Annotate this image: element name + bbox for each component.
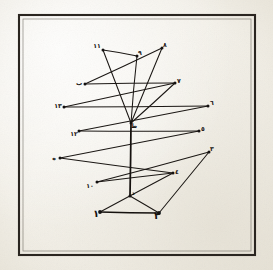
vertex-label-vd: د bbox=[131, 189, 134, 196]
figure-edge bbox=[64, 83, 175, 107]
vertex-label-vt: ط bbox=[131, 122, 138, 129]
figure-vertex bbox=[59, 157, 62, 160]
figure-edge bbox=[131, 48, 162, 123]
figure-edge bbox=[131, 56, 137, 123]
figure-edge bbox=[159, 152, 209, 213]
vertex-label-v8: ٨ bbox=[163, 41, 167, 48]
figure-edge bbox=[103, 50, 131, 123]
figure-vertex bbox=[78, 130, 81, 133]
vertex-label-v6: ٦ bbox=[210, 99, 214, 106]
figure-edge bbox=[100, 212, 159, 213]
vertex-label-v4: ٤ bbox=[175, 168, 179, 175]
frame-border-inner bbox=[23, 19, 251, 251]
vertex-label-v9: ٩ bbox=[138, 49, 142, 56]
figure-vertex bbox=[96, 181, 99, 184]
vertex-label-v10: ١٠ bbox=[86, 182, 94, 189]
vertex-label-v1: ١ bbox=[93, 208, 99, 219]
figure-vertex bbox=[63, 106, 66, 109]
vertex-label-v2: ٢ bbox=[154, 210, 160, 221]
vertex-label-v12: ١٢ bbox=[70, 130, 78, 137]
manuscript-page: ١٢٣٤٥٦٧٨٩١٠١١١٢١٣بهطد Geometric zigzag f… bbox=[0, 0, 273, 270]
figure-edge bbox=[60, 158, 173, 173]
geometric-figure: ١٢٣٤٥٦٧٨٩١٠١١١٢١٣بهطد bbox=[0, 0, 273, 270]
vertex-label-v11: ١١ bbox=[93, 42, 101, 49]
figure-edge bbox=[130, 123, 131, 196]
figure-edge bbox=[103, 50, 137, 56]
figure-edge bbox=[97, 173, 173, 182]
figure-vertex bbox=[172, 172, 175, 175]
figure-vertex bbox=[207, 105, 210, 108]
figure-vertex bbox=[198, 130, 201, 133]
diagram-frame bbox=[19, 15, 255, 255]
figure-edge bbox=[85, 83, 175, 84]
figure-edge bbox=[79, 106, 208, 131]
vertex-label-v7: ٧ bbox=[177, 77, 181, 84]
vertex-label-v5: ٥ bbox=[201, 125, 205, 132]
vertex-label-v13: ١٣ bbox=[54, 102, 62, 109]
figure-vertex bbox=[84, 83, 87, 86]
figure-edge bbox=[60, 131, 199, 158]
figure-edge bbox=[97, 152, 209, 182]
vertex-label-v3: ٣ bbox=[210, 145, 214, 152]
frame-border-outer bbox=[19, 15, 255, 255]
vertex-label-vh: ه bbox=[52, 154, 56, 161]
figure-vertex bbox=[174, 82, 177, 85]
figure-vertex bbox=[102, 49, 105, 52]
vertex-label-vb: ب bbox=[76, 79, 82, 86]
figure-edge bbox=[64, 106, 208, 107]
